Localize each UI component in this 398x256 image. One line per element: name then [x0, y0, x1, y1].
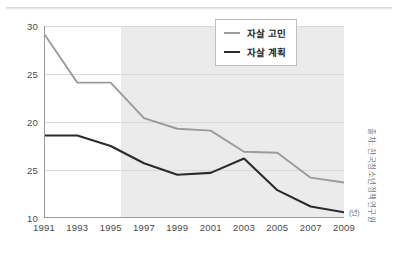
x-tick-label: 2005	[266, 222, 288, 233]
x-tick-label: 1993	[66, 222, 88, 233]
plot-area: 3025202510 19911993199519971999200120032…	[44, 26, 344, 218]
x-tick-label: 2009	[333, 222, 355, 233]
x-tick-label: 1995	[100, 222, 122, 233]
x-tick-label: 2001	[200, 222, 222, 233]
x-tick-label: 2003	[233, 222, 255, 233]
x-tick-label: 1997	[133, 222, 155, 233]
y-tick-label: 25	[27, 69, 38, 80]
y-axis-ticks: 3025202510	[44, 26, 344, 218]
x-tick-label: 2007	[300, 222, 322, 233]
source-note: 출처: 한국청소년정책연구원	[367, 128, 378, 223]
x-axis-unit-marker: (년)	[349, 207, 360, 217]
x-tick-label: 1991	[33, 222, 55, 233]
top-divider	[6, 7, 392, 10]
legend-item-suicide-plan: 자살 계획	[224, 45, 286, 59]
x-tick-label: 1999	[166, 222, 188, 233]
y-tick-label: 25	[27, 165, 38, 176]
y-tick-label: 20	[27, 117, 38, 128]
y-tick-label: 30	[27, 21, 38, 32]
legend-line-icon-gray	[224, 32, 240, 34]
legend-item-suicidal-ideation: 자살 고민	[224, 26, 286, 40]
legend-line-icon-black	[224, 51, 240, 53]
legend-label-suicidal-ideation: 자살 고민	[247, 26, 286, 40]
legend-label-suicide-plan: 자살 계획	[247, 45, 286, 59]
chart-legend: 자살 고민 자살 계획	[215, 19, 297, 66]
chart-figure: 3025202510 19911993199519971999200120032…	[0, 0, 398, 256]
